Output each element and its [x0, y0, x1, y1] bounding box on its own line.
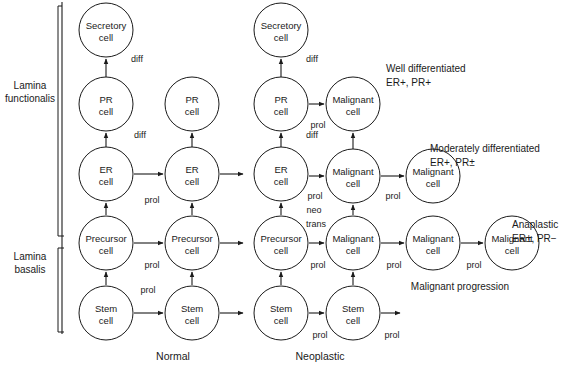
edge-label-prol-normal-stem: prol	[140, 285, 155, 295]
side-label-lamina-basalis: Lamina basalis	[14, 251, 47, 275]
cell-label-line2: cell	[274, 176, 288, 187]
cell-label-line2: cell	[426, 245, 440, 256]
anaplastic-line2: ER±, PR−	[512, 233, 557, 244]
cell-label-line2: cell	[346, 245, 360, 256]
cell-neo-pr[interactable]: PRcell	[254, 77, 308, 131]
moderately-differentiated-line1: Moderately differentiated	[430, 143, 540, 154]
cell-label-line2: cell	[99, 106, 113, 117]
cell-normal-pr-1[interactable]: PRcell	[79, 77, 133, 131]
cell-normal-precursor-1[interactable]: Precursorcell	[79, 216, 133, 270]
cell-label-line1: PR	[185, 94, 198, 105]
edge-label-prol-neo-prec: prol	[310, 260, 325, 270]
cell-label-line1: Precursor	[260, 233, 301, 244]
cell-normal-stem-1[interactable]: Stemcell	[79, 286, 133, 340]
figure-canvas: SecretorycellPRcellPRcellERcellERcellPre…	[0, 0, 578, 381]
cell-neo-malignant-ana-1[interactable]: Malignantcell	[326, 216, 380, 270]
cell-label-line2: cell	[346, 178, 360, 189]
edge-label-diff-normal-pr: diff	[134, 130, 146, 140]
cell-label-line2: cell	[185, 315, 199, 326]
cell-label-line2: cell	[505, 245, 519, 256]
cell-normal-secretory[interactable]: Secretorycell	[79, 3, 133, 57]
cell-label-line1: PR	[99, 94, 112, 105]
cell-label-line1: Stem	[181, 303, 203, 314]
cell-label-line1: Stem	[270, 303, 292, 314]
cell-label-line1: ER	[185, 164, 198, 175]
cell-label-line1: Malignant	[332, 94, 374, 105]
edge-label-prol-normal-er: prol	[144, 195, 159, 205]
basement-membrane	[58, 2, 64, 334]
cell-label-line1: Stem	[95, 303, 117, 314]
edge-label-prol-neo-stem-2: prol	[384, 330, 399, 340]
moderately-differentiated-line2: ER+, PR±	[430, 157, 475, 168]
edge-label-prol-neo-pr: prol	[310, 120, 325, 130]
cell-label-line1: Stem	[342, 303, 364, 314]
cell-normal-er-1[interactable]: ERcell	[79, 147, 133, 201]
cell-neo-malignant-mod-1[interactable]: Malignantcell	[325, 148, 381, 205]
cell-label-line2: cell	[185, 106, 199, 117]
cell-normal-er-2[interactable]: ERcell	[165, 147, 219, 201]
cell-neo-malignant-ana-2[interactable]: Malignantcell	[406, 216, 460, 270]
annotation-well-differentiated: Well differentiated ER+, PR+	[386, 63, 466, 88]
edge-label-prol-ana-1: prol	[386, 260, 401, 270]
cell-label-line1: Precursor	[85, 233, 126, 244]
cell-neo-malignant-well[interactable]: Malignantcell	[326, 77, 380, 131]
edge-label-prol-normal-prec: prol	[144, 260, 159, 270]
cell-normal-pr-2[interactable]: PRcell	[165, 77, 219, 131]
diagram-svg: SecretorycellPRcellPRcellERcellERcellPre…	[0, 0, 578, 381]
edge-label-trans-neo: trans	[306, 219, 327, 229]
cell-label-line1: Malignant	[332, 166, 374, 177]
cell-label-line2: cell	[346, 315, 360, 326]
edge-label-prol-mod-1: prol	[385, 191, 400, 201]
anaplastic-line1: Anaplastic	[512, 219, 558, 230]
cell-label-line2: cell	[99, 32, 113, 43]
cell-label-line1: ER	[274, 164, 287, 175]
cell-label-line2: cell	[99, 315, 113, 326]
cell-label-line2: cell	[274, 245, 288, 256]
cell-label-line2: cell	[99, 245, 113, 256]
edge-label-diff-normal-sec: diff	[131, 54, 143, 64]
cell-neo-er[interactable]: ERcell	[254, 147, 308, 201]
lamina-basalis-line1: Lamina	[14, 251, 47, 262]
cell-neo-stem-2[interactable]: Stemcell	[326, 286, 380, 340]
cell-label-line1: PR	[274, 94, 287, 105]
column-caption-neoplastic: Neoplastic	[295, 350, 344, 362]
cell-label-line1: ER	[99, 164, 112, 175]
cell-label-line1: Secretory	[86, 20, 127, 31]
cell-label-line2: cell	[185, 245, 199, 256]
edge-label-prol-ana-2: prol	[466, 260, 481, 270]
cell-label-line1: Malignant	[412, 233, 454, 244]
cell-neo-secretory[interactable]: Secretorycell	[254, 3, 308, 57]
edge-label-prol-neo-er: prol	[307, 191, 322, 201]
cell-normal-stem-2[interactable]: Stemcell	[165, 286, 219, 340]
cell-label-line2: cell	[426, 178, 440, 189]
edge-label-diff-neo-sec: diff	[306, 54, 318, 64]
lamina-functionalis-line2: functionalis	[5, 93, 55, 104]
side-label-lamina-functionalis: Lamina functionalis	[5, 80, 55, 104]
cell-label-line2: cell	[274, 106, 288, 117]
cell-label-line2: cell	[274, 32, 288, 43]
well-differentiated-line2: ER+, PR+	[386, 77, 431, 88]
cell-label-line1: Malignant	[332, 233, 374, 244]
edge-label-diff-neo-pr: diff	[306, 130, 318, 140]
edge-label-prol-neo-stem-1: prol	[312, 330, 327, 340]
cell-normal-precursor-2[interactable]: Precursorcell	[165, 216, 219, 270]
cell-label-line2: cell	[185, 176, 199, 187]
column-caption-normal: Normal	[156, 350, 190, 362]
lamina-basalis-line2: basalis	[14, 264, 45, 275]
cell-label-line2: cell	[346, 106, 360, 117]
cell-label-line1: Precursor	[171, 233, 212, 244]
cell-label-line1: Secretory	[261, 20, 302, 31]
well-differentiated-line1: Well differentiated	[386, 63, 466, 74]
cell-neo-precursor[interactable]: Precursorcell	[254, 216, 308, 270]
malignant-progression-label: Malignant progression	[411, 281, 509, 292]
lamina-functionalis-line1: Lamina	[14, 80, 47, 91]
cell-label-line2: cell	[99, 176, 113, 187]
edge-label-neo-neo: neo	[306, 205, 321, 215]
cell-neo-stem-1[interactable]: Stemcell	[254, 286, 308, 340]
cell-label-line2: cell	[274, 315, 288, 326]
